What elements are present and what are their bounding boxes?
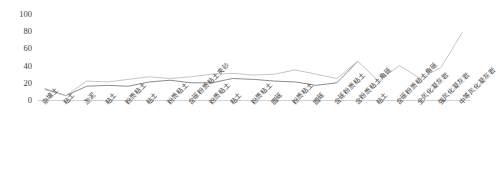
- x-tick-label: 粘土: [104, 91, 119, 106]
- x-tick-label: 粘土: [229, 91, 244, 106]
- x-tick-label: 粘土: [145, 91, 160, 106]
- x-tick-label: 杂填土: [41, 86, 61, 106]
- x-tick-label: 淤泥: [83, 91, 98, 106]
- y-tick-label: 80: [24, 27, 33, 36]
- x-tick-label: 粉质粘土: [124, 81, 148, 105]
- x-tick-label: 圆砾: [270, 91, 285, 106]
- x-tick-label: 粉质粘土: [166, 81, 190, 105]
- y-tick-label: 100: [19, 10, 32, 19]
- y-tick-label: 20: [24, 79, 33, 88]
- y-tick-label: 60: [24, 44, 33, 53]
- x-axis: 杂填土粘土淤泥粘土粉质粘土粘土粉质粘土含砾粉质粘土夹砂粉质粘土粘土粉质粘土圆砾粉…: [0, 101, 473, 180]
- x-tick-label: 粘土: [375, 91, 390, 106]
- x-tick-label: 粉质粘土: [291, 81, 315, 105]
- series-2-line: [45, 33, 462, 96]
- x-tick-label: 圆砾: [312, 91, 327, 106]
- y-tick-label: 40: [24, 62, 33, 71]
- x-tick-label: 粘土: [62, 91, 77, 106]
- y-axis: 100 80 60 40 20 0: [0, 0, 36, 110]
